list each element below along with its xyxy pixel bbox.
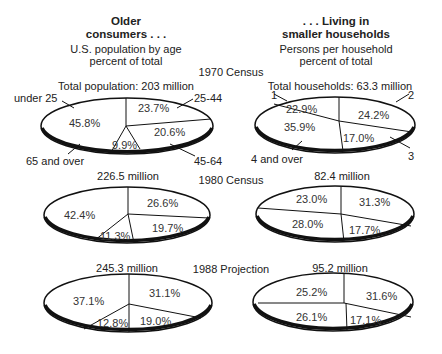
pct-r1988-4-over: 26.1% xyxy=(296,311,327,323)
pct-l1970-65-over: 9.9% xyxy=(112,139,137,151)
pie-charts: 45.8% 23.7% 20.6% 9.9% 22.9% 24.2% 35.9%… xyxy=(0,0,442,354)
pct-r1988-3: 17.1% xyxy=(350,314,381,326)
pct-l1988-45-64: 19.0% xyxy=(140,315,171,327)
pie-right-1980 xyxy=(256,186,414,242)
pct-l1970-under25: 45.8% xyxy=(69,117,100,129)
pct-r1980-1: 23.0% xyxy=(296,193,327,205)
pct-l1980-25-44: 26.6% xyxy=(147,197,178,209)
pct-r1980-2: 31.3% xyxy=(359,196,390,208)
pct-l1970-25-44: 23.7% xyxy=(138,102,169,114)
pct-r1980-4-over: 28.0% xyxy=(292,218,323,230)
pct-l1980-65-over: 11.3% xyxy=(100,230,131,242)
pct-l1988-under25: 37.1% xyxy=(73,295,104,307)
pct-l1988-65-over: 12.8% xyxy=(97,317,128,329)
pct-l1970-45-64: 20.6% xyxy=(154,126,185,138)
pct-r1970-4-over: 35.9% xyxy=(284,121,315,133)
pct-r1988-2: 31.6% xyxy=(366,290,397,302)
pct-l1980-under25: 42.4% xyxy=(64,209,95,221)
pie-right-1970 xyxy=(255,94,415,153)
pct-r1970-1: 22.9% xyxy=(286,103,317,115)
pct-r1980-3: 17.7% xyxy=(349,224,380,236)
pct-l1980-45-64: 19.7% xyxy=(152,222,183,234)
pct-l1988-25-44: 31.1% xyxy=(149,287,180,299)
pct-r1970-2: 24.2% xyxy=(358,109,389,121)
pie-right-1988 xyxy=(253,273,413,331)
pct-r1988-1: 25.2% xyxy=(296,286,327,298)
pct-r1970-3: 17.0% xyxy=(343,132,374,144)
